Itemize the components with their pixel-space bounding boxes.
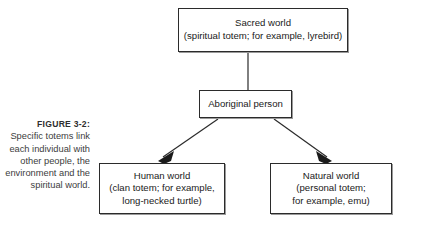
connector-person-to-human <box>163 119 218 157</box>
node-natural-world-line-2: (personal totem; <box>296 182 365 195</box>
node-human-world-line-2: (clan totem; for example, <box>109 182 215 195</box>
node-natural-world-line-1: Natural world <box>303 170 360 183</box>
node-sacred-world-line-1: Sacred world <box>235 17 291 30</box>
node-aboriginal-person: Aboriginal person <box>199 90 292 118</box>
figure-diagram: FIGURE 3-2: Specific totems link each in… <box>0 0 429 227</box>
figure-caption-body: Specific totems link each individual wit… <box>0 130 90 191</box>
node-aboriginal-person-line-1: Aboriginal person <box>208 98 283 111</box>
node-human-world-line-3: long-necked turtle) <box>122 195 201 208</box>
figure-caption: FIGURE 3-2: Specific totems link each in… <box>0 118 90 192</box>
node-human-world: Human world (clan totem; for example, lo… <box>99 163 225 214</box>
node-sacred-world: Sacred world (spiritual totem; for examp… <box>178 8 348 52</box>
node-human-world-line-1: Human world <box>134 170 191 183</box>
connector-person-to-natural <box>274 119 327 157</box>
node-natural-world-line-3: for example, emu) <box>292 195 369 208</box>
node-sacred-world-line-2: (spiritual totem; for example, lyrebird) <box>184 30 342 43</box>
node-natural-world: Natural world (personal totem; for examp… <box>270 163 392 214</box>
figure-caption-label: FIGURE 3-2: <box>0 118 90 130</box>
